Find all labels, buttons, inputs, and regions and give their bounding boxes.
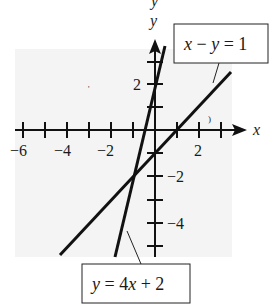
x-tick-label: −4 bbox=[54, 142, 71, 159]
top-cut-label: y bbox=[149, 0, 159, 10]
x-tick-label: −2 bbox=[97, 142, 114, 159]
y-tick-label: −4 bbox=[167, 215, 184, 232]
graph: y x y −6 −4 −2 2 2 −2 −4 bbox=[0, 0, 270, 307]
x-tick-label: −6 bbox=[10, 142, 27, 159]
x-tick-label: 2 bbox=[194, 142, 202, 159]
y-axis-label: y bbox=[148, 12, 158, 30]
equation-label-top: x − y = 1 bbox=[183, 34, 247, 54]
x-axis-label: x bbox=[252, 121, 260, 138]
equation-label-bottom: y = 4x + 2 bbox=[90, 274, 164, 294]
stray-mark: ) bbox=[208, 114, 211, 124]
y-tick-label: 2 bbox=[133, 76, 141, 93]
y-tick-label: −2 bbox=[167, 168, 184, 185]
